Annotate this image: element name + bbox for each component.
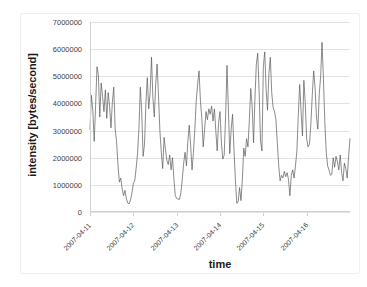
x-axis-tick-label: 2007-04-12: [106, 221, 136, 251]
x-axis-tick-labels: 2007-04-112007-04-122007-04-132007-04-14…: [90, 213, 352, 257]
x-axis-tick-mark: [133, 213, 134, 216]
x-axis-tick-label: 2007-04-15: [236, 221, 266, 251]
y-axis-tick-label: 0: [78, 208, 82, 217]
y-axis-tick-label: 1000000: [53, 180, 82, 189]
x-axis-tick-mark: [177, 213, 178, 216]
y-axis-tick-label: 5000000: [53, 72, 82, 81]
x-axis-tick-mark: [263, 213, 264, 216]
x-axis-tick-mark: [220, 213, 221, 216]
x-axis-tick-label: 2007-04-16: [279, 221, 309, 251]
x-axis-tick-mark: [307, 213, 308, 216]
y-axis-tick-label: 3000000: [53, 126, 82, 135]
series-intensity: [90, 22, 350, 212]
x-axis-tick-label: 2007-04-14: [192, 221, 222, 251]
plot-area: [90, 22, 350, 212]
x-axis-title: time: [90, 258, 350, 270]
chart-figure: intensity [bytes/second] 700000060000005…: [0, 0, 367, 287]
y-axis-tick-label: 6000000: [53, 45, 82, 54]
y-axis-tick-label: 4000000: [53, 99, 82, 108]
y-axis-tick-labels: 7000000600000050000004000000300000020000…: [0, 22, 86, 212]
x-axis-tick-label: 2007-04-13: [149, 221, 179, 251]
x-axis-tick-mark: [90, 213, 91, 216]
series-line-path: [90, 42, 350, 204]
y-axis-tick-label: 7000000: [53, 18, 82, 27]
y-axis-tick-label: 2000000: [53, 153, 82, 162]
